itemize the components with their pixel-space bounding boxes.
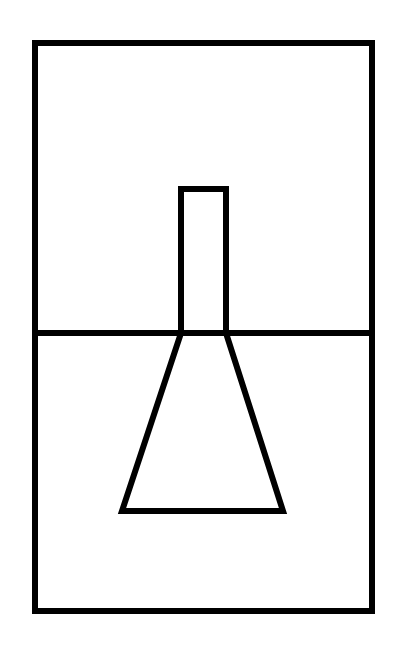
diagram-canvas [0, 0, 405, 647]
flask-diagram [0, 0, 405, 647]
background [0, 0, 405, 647]
